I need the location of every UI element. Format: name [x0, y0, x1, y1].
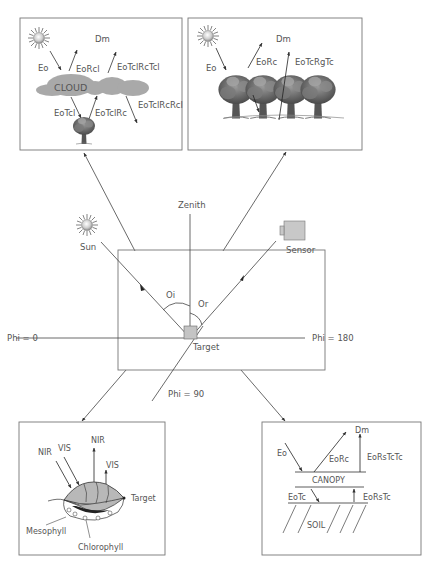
eorc-label: EoRc [256, 57, 277, 67]
theta-r-label: Or [198, 299, 209, 309]
sun-icon [28, 27, 50, 49]
eo-label: Eo [38, 63, 49, 73]
phi-0-label: Phi = 0 [7, 333, 38, 343]
leaf-panel: NIR VIS NIR VIS Target Mesophyll [19, 422, 165, 555]
sun-label: Sun [80, 242, 96, 252]
theta-i-label: Oi [166, 290, 175, 300]
eotclrcrcl-label: EoTclRcRcl [138, 100, 183, 110]
arrow-to-cloud-panel [84, 153, 135, 251]
radiation-geometry-diagram: Dm Eo EoRcl EoTclRcTcl CLOUD EoTcl EoTcl… [0, 0, 439, 571]
eotclrc-label: EoTclRc [95, 108, 127, 118]
arrow-to-forest-panel [223, 152, 286, 251]
soil-label: SOIL [307, 521, 326, 530]
nir-in-label: NIR [38, 448, 52, 457]
target-label: Target [130, 494, 156, 503]
arrow-to-canopy-panel [241, 370, 285, 421]
eotclrctcl-label: EoTclRcTcl [117, 62, 160, 72]
eotcl-label: EoTcl [54, 108, 75, 118]
cloud-label: CLOUD [54, 82, 87, 93]
cloud-panel: Dm Eo EoRcl EoTclRcTcl CLOUD EoTcl EoTcl… [20, 18, 183, 150]
sun-icon [197, 25, 219, 47]
dm-label: Dm [355, 426, 369, 435]
canopy-panel: Dm Eo EoRc EoRsTcTc CANOPY EoTc EoRsTc [262, 422, 421, 555]
target-label: Target [192, 342, 220, 352]
eorstc-label: EoRsTc [363, 493, 391, 502]
eo-label: Eo [206, 63, 217, 73]
eo-label: Eo [277, 449, 287, 458]
eorc-label: EoRc [329, 455, 349, 464]
dm-label: Dm [276, 34, 291, 44]
connector-arrows [82, 152, 286, 421]
canopy-label: CANOPY [312, 476, 345, 485]
reflected-ray [190, 241, 276, 338]
phi-90-label: Phi = 90 [168, 389, 204, 399]
zenith-label: Zenith [178, 200, 206, 210]
camera-sensor-icon [280, 221, 305, 240]
incident-ray [101, 242, 190, 338]
target-marker [184, 326, 197, 339]
chlorophyll-label: Chlorophyll [78, 543, 123, 552]
nir-out-label: NIR [91, 436, 105, 445]
sun-icon [76, 214, 98, 236]
arrow-to-leaf-panel [82, 370, 126, 421]
eotc-label: EoTc [288, 493, 306, 502]
eorstctc-label: EoRsTcTc [367, 453, 403, 462]
forest-panel: Dm Eo EoRc EoTcRgTc [188, 18, 362, 150]
mesophyll-label: Mesophyll [26, 527, 66, 536]
phi-180-label: Phi = 180 [312, 333, 354, 343]
eorcl-label: EoRcl [76, 64, 100, 74]
eotcrgtc-label: EoTcRgTc [295, 57, 334, 67]
sensor-label: Sensor [286, 245, 316, 255]
vis-out-label: VIS [106, 461, 119, 470]
dm-label: Dm [95, 34, 110, 44]
vis-in-label: VIS [58, 444, 71, 453]
geometry-panel: Zenith Sun Sensor Oi Or Phi = 0 Phi = 18… [7, 200, 354, 401]
